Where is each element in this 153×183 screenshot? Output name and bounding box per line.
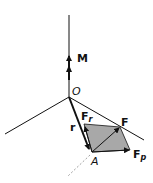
label-Fr: Fr <box>81 110 94 124</box>
label-r: r <box>70 121 76 134</box>
moment-diagram: M O r F Fr Fp A <box>0 0 153 183</box>
plane-line-left <box>5 97 69 134</box>
label-F: F <box>121 116 129 129</box>
moment-double-arrow-icon <box>66 65 72 72</box>
label-Fp: Fp <box>133 148 147 162</box>
label-O: O <box>72 85 81 98</box>
extension-line-dashed <box>68 155 90 176</box>
label-M: M <box>77 52 88 65</box>
label-A: A <box>90 155 99 168</box>
